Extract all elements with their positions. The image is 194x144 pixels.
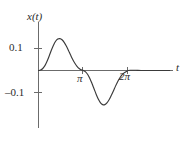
figure-x-of-t: x(t) t 0.1 –0.1 π 2π [0, 0, 194, 144]
x-axis-label: t [176, 62, 179, 73]
y-tick-label-positive: 0.1 [9, 42, 23, 53]
x-tick-label-2pi: 2π [119, 71, 130, 82]
x-tick-label-pi: π [77, 73, 83, 84]
data-curve-x-of-t [39, 39, 170, 105]
y-tick-label-negative: –0.1 [5, 87, 24, 98]
y-axis-label: x(t) [27, 11, 42, 22]
